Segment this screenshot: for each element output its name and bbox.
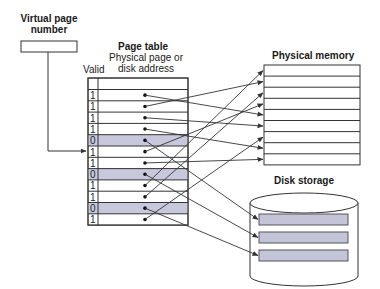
disk-block xyxy=(259,214,348,225)
valid-bit: 1 xyxy=(90,101,96,112)
valid-bit: 1 xyxy=(90,147,96,158)
valid-bit: 1 xyxy=(90,214,96,225)
valid-bit: 1 xyxy=(90,90,96,101)
valid-bit: 1 xyxy=(90,158,96,169)
virtual-page-number-box xyxy=(21,41,86,151)
valid-bit: 0 xyxy=(90,169,96,180)
valid-bit: 1 xyxy=(90,124,96,135)
disk-block xyxy=(259,232,348,243)
disk-block xyxy=(259,250,348,261)
disk-storage-cylinder xyxy=(250,193,358,286)
valid-bit: 1 xyxy=(90,113,96,124)
page-table-row: 0 xyxy=(88,203,188,215)
valid-bit: 1 xyxy=(90,180,96,191)
mapping-arrow xyxy=(145,208,258,255)
physical-memory-block xyxy=(264,65,360,165)
valid-bit: 0 xyxy=(90,135,96,146)
page-table-row: 0 xyxy=(88,169,188,181)
valid-bit: 0 xyxy=(90,203,96,214)
page-table-diagram: 111101101101 xyxy=(0,0,380,289)
valid-bit: 1 xyxy=(90,192,96,203)
